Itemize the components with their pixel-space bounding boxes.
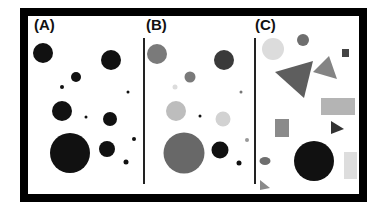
panel-a-circle — [60, 85, 64, 89]
panel-c-rect — [321, 98, 355, 115]
panel-a-circle — [85, 116, 88, 119]
panel-b-circle — [185, 72, 196, 83]
panel-c-triangle — [313, 56, 337, 79]
panel-a-circle — [101, 50, 121, 70]
panel-c-triangle — [260, 180, 270, 190]
panel-b-circle — [164, 133, 205, 174]
panel-c-rect — [344, 152, 357, 179]
panel-b-circle — [216, 112, 231, 127]
panel-c-rect — [342, 49, 349, 57]
panel-c-triangle — [331, 121, 344, 134]
panel-a-circle — [132, 137, 136, 141]
panel-a-circle — [50, 133, 90, 173]
panel-c-circle — [262, 38, 284, 60]
panel-c-circle — [297, 34, 309, 46]
panel-a-circle — [71, 72, 81, 82]
panel-b-circle — [147, 44, 167, 64]
panel-b-circle — [245, 138, 249, 142]
panel-a-circle — [52, 101, 72, 121]
panel-a-circle — [99, 141, 115, 157]
panel-c-rect — [275, 119, 289, 137]
panel-b-circle — [199, 115, 202, 118]
panel-b-circle — [166, 101, 186, 121]
panel-a-circle — [103, 112, 117, 126]
panel-b-circle — [237, 161, 242, 166]
panel-c-triangle — [275, 61, 313, 98]
panel-b-circle — [214, 50, 234, 70]
shapes-canvas — [0, 0, 382, 215]
panel-a-circle — [127, 91, 130, 94]
panel-c-ellipse — [260, 157, 271, 165]
panel-a-circle — [33, 43, 53, 63]
panel-b-circle — [240, 91, 243, 94]
panel-b-circle — [212, 142, 229, 159]
panel-a-circle — [124, 160, 129, 165]
panel-c-circle — [294, 141, 334, 181]
panel-b-circle — [173, 85, 178, 90]
